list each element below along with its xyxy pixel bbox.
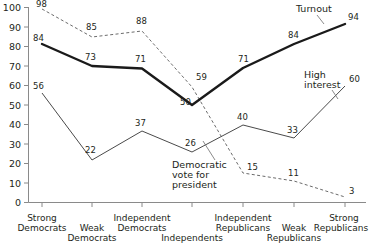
demvote-label-5: 11 — [288, 168, 299, 178]
annotation-turnout-leader — [317, 15, 324, 24]
cat0-line1: Strong — [27, 213, 57, 223]
highinterest-label-5: 33 — [287, 125, 298, 135]
y-label-40: 40 — [9, 119, 21, 130]
x-category-label-weak-democrats: Weak Democrats — [67, 223, 116, 243]
highinterest-label-1: 22 — [85, 145, 96, 155]
cat2-line2: Democrats — [117, 223, 166, 233]
annotation-high-interest: High interest — [304, 69, 341, 99]
cat4-line2: Republicans — [216, 223, 271, 233]
x-category-label-strong-republicans: Strong Republicans — [314, 213, 369, 233]
demvote-label-1: 85 — [86, 22, 97, 32]
demvote-label-3: 59 — [196, 72, 207, 82]
turnout-label-2: 71 — [135, 54, 146, 64]
cat6-line2: Republicans — [314, 223, 369, 233]
cat1-line2: Democrats — [67, 233, 116, 243]
demvote-label-6: 3 — [349, 186, 354, 196]
x-category-label-independent-republicans: Independent Republicans — [214, 213, 272, 233]
chart-svg: 100 90 80 70 60 50 40 30 20 10 0 Strong … — [0, 0, 371, 244]
series-line-turnout — [42, 24, 345, 105]
line-chart-party-identification: 100 90 80 70 60 50 40 30 20 10 0 Strong … — [0, 0, 371, 244]
y-label-100: 100 — [3, 2, 21, 13]
turnout-label-3: 50 — [180, 97, 191, 107]
highinterest-label-4: 40 — [237, 112, 248, 122]
demvote-label-4: 15 — [247, 162, 258, 172]
y-label-60: 60 — [9, 80, 21, 91]
turnout-label-0: 84 — [33, 33, 44, 43]
annotation-high-interest-line2: interest — [304, 79, 341, 90]
highinterest-label-3: 26 — [185, 138, 196, 148]
highinterest-label-2: 37 — [135, 118, 146, 128]
y-label-30: 30 — [9, 139, 21, 150]
demvote-label-2: 88 — [136, 16, 147, 26]
turnout-label-6: 94 — [348, 12, 359, 22]
y-label-90: 90 — [9, 22, 21, 33]
y-label-0: 0 — [15, 197, 21, 208]
x-category-label-independent-democrats: Independent Democrats — [113, 213, 171, 233]
x-category-label-independents: Independents — [161, 233, 223, 243]
cat3-line1: Independents — [161, 233, 223, 243]
cat5-line1: Weak — [282, 223, 307, 233]
x-category-label-strong-democrats: Strong Democrats — [17, 213, 66, 233]
demvote-label-0: 98 — [36, 0, 47, 9]
x-axis — [29, 203, 367, 208]
y-label-80: 80 — [9, 41, 21, 52]
annotation-turnout-text: Turnout — [295, 3, 332, 14]
turnout-label-4: 71 — [238, 54, 249, 64]
y-label-10: 10 — [9, 178, 21, 189]
cat2-line1: Independent — [113, 213, 171, 223]
annotation-dem-vote-line3: president — [172, 179, 217, 190]
annotation-dem-vote-leader — [203, 141, 215, 160]
y-label-50: 50 — [9, 100, 21, 111]
y-label-70: 70 — [9, 61, 21, 72]
turnout-label-5: 84 — [288, 30, 299, 40]
annotation-turnout: Turnout — [295, 3, 332, 24]
cat4-line1: Independent — [214, 213, 272, 223]
y-axis: 100 90 80 70 60 50 40 30 20 10 0 — [3, 2, 29, 208]
turnout-label-1: 73 — [85, 52, 96, 62]
y-label-20: 20 — [9, 158, 21, 169]
cat0-line2: Democrats — [17, 223, 66, 233]
highinterest-label-6: 60 — [349, 74, 360, 84]
highinterest-label-0: 56 — [33, 81, 44, 91]
x-category-labels: Strong Democrats Weak Democrats Independ… — [17, 213, 368, 243]
cat5-line2: Republicans — [267, 233, 322, 243]
cat1-line1: Weak — [80, 223, 105, 233]
cat6-line1: Strong — [329, 213, 359, 223]
